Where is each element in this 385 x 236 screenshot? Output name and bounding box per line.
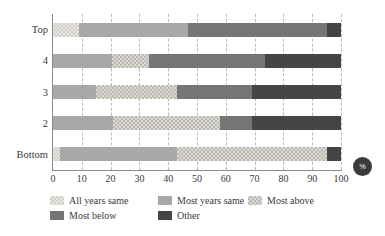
bar-segment-most-above [96,85,177,99]
bar-segment-most-years-same [60,147,177,161]
y-axis-label: 3 [2,87,48,98]
x-axis-tick: 60 [221,173,231,185]
bar-segment-most-below [177,85,252,99]
bar-segment-all-years-same [53,23,79,37]
bar-segment-other [252,116,341,130]
bar-rows [53,14,341,170]
legend-row: Most belowOther [50,209,360,222]
bar-segment-most-years-same [53,54,112,68]
bar-row [53,147,341,161]
legend-label: Other [177,210,200,221]
legend-label: Most years same [177,195,244,206]
bar-segment-other [252,85,341,99]
legend-item-most-below[interactable]: Most below [50,209,117,222]
legend-label: Most below [69,210,117,221]
bar-segment-most-below [149,54,264,68]
legend-item-most-above[interactable]: Most above [248,194,314,207]
legend-swatch-most-above-icon [248,196,262,205]
legend-swatch-other-icon [158,211,172,220]
x-axis-tick: 40 [163,173,173,185]
x-axis-tick-labels: 0102030405060708090100 [53,173,341,187]
bar-segment-most-above [112,54,149,68]
y-axis-label: 4 [2,55,48,66]
x-axis-line [52,170,342,171]
legend-swatch-most-below-icon [50,211,64,220]
stacked-bar-chart: Top432Bottom 0102030405060708090100 % Al… [0,0,385,236]
x-axis-tick: 0 [51,173,56,185]
y-axis-label: Top [2,24,48,35]
legend-item-most-years-same[interactable]: Most years same [158,194,244,207]
bar-segment-most-years-same [79,23,188,37]
bar-segment-most-below [188,23,326,37]
bar-segment-other [265,54,341,68]
bar-row [53,23,341,37]
legend-swatch-most-years-same-icon [158,196,172,205]
x-axis-tick: 90 [307,173,317,185]
plot-area [53,14,341,170]
y-axis-label: Bottom [2,149,48,160]
bar-segment-all-years-same [53,147,60,161]
bar-row [53,54,341,68]
y-axis-label: 2 [2,118,48,129]
bar-segment-other [327,23,341,37]
bar-segment-most-below [220,116,252,130]
bar-row [53,85,341,99]
x-axis-tick: 30 [134,173,144,185]
y-axis-category-labels: Top432Bottom [0,14,48,170]
bar-segment-most-years-same [53,116,113,130]
legend-item-other[interactable]: Other [158,209,200,222]
x-axis-tick: 100 [334,173,349,185]
bar-row [53,116,341,130]
bar-segment-most-above [177,147,327,161]
legend-label: Most above [267,195,314,206]
bar-segment-most-above [113,116,220,130]
legend-label: All years same [69,195,128,206]
percent-badge: % [353,157,372,176]
legend-item-all-years-same[interactable]: All years same [50,194,128,207]
x-axis-tick: 70 [250,173,260,185]
plot-wrapper: Top432Bottom 0102030405060708090100 % [0,0,385,190]
chart-legend: All years sameMost years sameMost aboveM… [50,194,360,224]
bar-segment-other [327,147,341,161]
gridline-100 [341,14,342,170]
x-axis-tick: 80 [278,173,288,185]
x-axis-tick: 20 [106,173,116,185]
x-axis-tick: 10 [77,173,87,185]
legend-row: All years sameMost years sameMost above [50,194,360,207]
legend-swatch-all-years-same-icon [50,196,64,205]
x-axis-tick: 50 [192,173,202,185]
bar-segment-most-years-same [53,85,96,99]
